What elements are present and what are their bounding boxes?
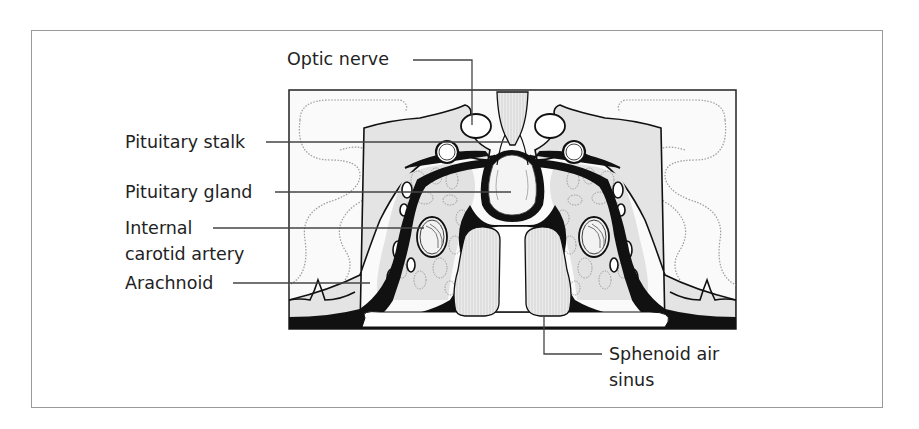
- label-arachnoid: Arachnoid: [125, 272, 213, 294]
- label-optic-nerve: Optic nerve: [287, 48, 389, 70]
- label-pituitary-stalk: Pituitary stalk: [125, 131, 245, 153]
- sphenoid-bone: [362, 312, 669, 327]
- internal-carotid-right: [579, 217, 609, 257]
- label-internal-carotid-line1: Internal: [125, 217, 192, 239]
- label-pituitary-gland: Pituitary gland: [125, 181, 252, 203]
- label-internal-carotid-line2: carotid artery: [125, 243, 244, 265]
- optic-nerve-left: [461, 114, 491, 138]
- optic-nerve-right: [535, 114, 565, 138]
- label-sphenoid-line2: sinus: [609, 369, 654, 391]
- label-sphenoid-line1: Sphenoid air: [609, 343, 719, 365]
- anatomy-diagram: [0, 0, 919, 429]
- internal-carotid-left: [417, 217, 447, 257]
